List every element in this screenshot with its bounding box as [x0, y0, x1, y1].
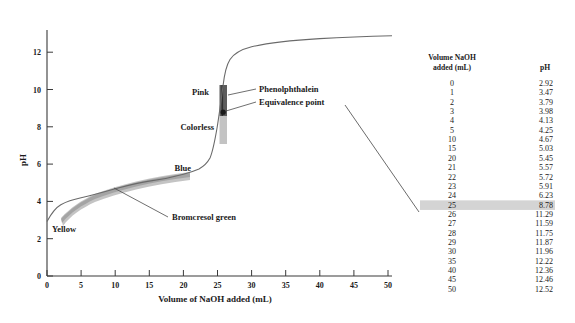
table-cell-volume: 35 [448, 257, 456, 266]
table-cell-ph: 4.25 [539, 126, 553, 135]
x-tick-label-25: 25 [214, 281, 222, 290]
table-cell-volume: 2 [450, 98, 454, 107]
table-cell-volume: 0 [450, 79, 454, 88]
table-cell-volume: 21 [448, 163, 456, 172]
x-tick-label-30: 30 [248, 281, 256, 290]
y-tick-label-4: 4 [37, 197, 41, 206]
table-cell-volume: 5 [450, 126, 454, 135]
table-cell-ph: 12.36 [535, 266, 553, 275]
annotation-equivalence-point: Equivalence point [259, 97, 325, 107]
x-tick-label-5: 5 [79, 281, 83, 290]
table-cell-volume: 27 [448, 219, 456, 228]
y-tick-label-10: 10 [33, 86, 41, 95]
equivalence-to-table-connector [345, 105, 419, 212]
table-cell-volume: 23 [448, 182, 456, 191]
ph-data-table: Volume NaOH added (mL) pH 02.9213.4723.7… [420, 53, 555, 294]
y-axis-tick-labels: 0 2 4 6 8 10 12 [33, 48, 41, 281]
table-cell-ph: 11.96 [535, 247, 553, 256]
y-tick-label-12: 12 [33, 48, 41, 57]
table-cell-volume: 30 [448, 247, 456, 256]
table-cell-ph: 6.23 [539, 191, 553, 200]
annotation-bromcresol-green: Bromcresol green [172, 212, 236, 222]
table-cell-ph: 4.67 [539, 135, 553, 144]
x-tick-label-40: 40 [316, 281, 324, 290]
table-cell-volume: 10 [448, 135, 456, 144]
annotation-colorless: Colorless [180, 122, 214, 132]
table-cell-ph: 12.22 [535, 257, 553, 266]
table-cell-ph: 5.45 [539, 154, 553, 163]
table-cell-ph: 12.46 [535, 275, 553, 284]
table-cell-ph: 11.59 [535, 219, 553, 228]
table-cell-volume: 22 [448, 173, 456, 182]
indicator-band-bromcresol-green [61, 172, 190, 226]
x-tick-label-15: 15 [145, 281, 153, 290]
table-cell-volume: 4 [450, 116, 454, 125]
table-cell-ph: 3.47 [539, 88, 553, 97]
table-cell-ph: 8.78 [539, 201, 553, 210]
annotation-pink: Pink [192, 87, 209, 97]
table-cell-volume: 24 [448, 191, 456, 200]
table-cell-ph: 11.29 [535, 210, 553, 219]
table-cell-ph: 2.92 [539, 79, 553, 88]
table-cell-ph: 5.91 [539, 182, 553, 191]
table-cell-ph: 3.98 [539, 107, 553, 116]
x-tick-label-0: 0 [45, 281, 49, 290]
y-tick-label-6: 6 [37, 160, 41, 169]
table-cell-volume: 50 [448, 285, 456, 294]
table-row-highlight [420, 200, 555, 210]
titration-plot: 0 2 4 6 8 10 12 0 5 10 15 20 [0, 0, 575, 323]
x-axis-title: Volume of NaOH added (mL) [158, 294, 272, 304]
table-cell-volume: 26 [448, 210, 456, 219]
table-header-ph: pH [540, 63, 550, 72]
table-cell-volume: 29 [448, 238, 456, 247]
table-cell-volume: 20 [448, 154, 456, 163]
table-cell-volume: 15 [448, 144, 456, 153]
y-tick-label-0: 0 [37, 272, 41, 281]
table-cell-ph: 12.52 [535, 285, 553, 294]
table-cell-volume: 1 [450, 88, 454, 97]
x-tick-label-35: 35 [282, 281, 290, 290]
axes [47, 30, 392, 276]
table-cell-volume: 3 [450, 107, 454, 116]
y-axis-title: pH [18, 154, 28, 166]
x-tick-label-20: 20 [179, 281, 187, 290]
table-header-volume-line1: Volume NaOH [428, 53, 476, 62]
annotation-leader-lines [114, 89, 256, 217]
annotation-yellow: Yellow [52, 224, 77, 234]
y-tick-label-2: 2 [37, 235, 41, 244]
table-cell-ph: 3.79 [539, 98, 553, 107]
table-cell-ph: 5.03 [539, 144, 553, 153]
y-axis-ticks [47, 52, 53, 276]
table-header-volume-line2: added (mL) [433, 63, 472, 72]
x-axis-tick-labels: 0 5 10 15 20 25 30 35 40 45 50 [45, 281, 392, 290]
equivalence-point-marker [221, 110, 226, 115]
x-tick-label-50: 50 [384, 281, 392, 290]
annotation-phenolphthalein: Phenolphthalein [259, 84, 319, 94]
table-cell-ph: 11.87 [535, 238, 553, 247]
table-cell-ph: 5.57 [539, 163, 553, 172]
table-cell-ph: 11.75 [535, 229, 553, 238]
x-axis-ticks [47, 270, 388, 276]
table-cell-volume: 45 [448, 275, 456, 284]
table-cell-ph: 5.72 [539, 173, 553, 182]
table-cell-volume: 40 [448, 266, 456, 275]
annotation-blue: Blue [174, 163, 191, 173]
x-tick-label-10: 10 [111, 281, 119, 290]
y-tick-label-8: 8 [37, 123, 41, 132]
table-cell-ph: 4.13 [539, 116, 553, 125]
table-cell-volume: 25 [448, 201, 456, 210]
table-cell-volume: 28 [448, 229, 456, 238]
x-tick-label-45: 45 [350, 281, 358, 290]
titration-figure: 0 2 4 6 8 10 12 0 5 10 15 20 [0, 0, 575, 323]
